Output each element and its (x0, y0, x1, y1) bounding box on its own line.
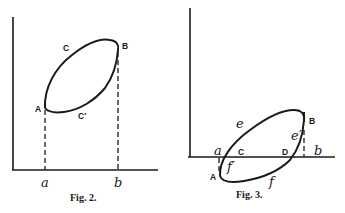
fig3-arc-e-prime: e′ (291, 128, 302, 143)
fig3-mark-b: b (314, 143, 322, 158)
fig2-label-B: B (122, 41, 128, 51)
fig3-label-B: B (309, 116, 315, 126)
fig3-label-A: A (210, 172, 216, 182)
fig3-label-D: D (282, 147, 288, 157)
fig2-label-A: A (35, 104, 41, 114)
fig2-mark-b: b (114, 175, 122, 190)
fig-3: A B C D a b e e′ f′ f Fig. 3. (188, 8, 335, 200)
fig3-arc-f: f (268, 174, 276, 189)
fig-2: A B C C′ a b Fig. 2. (12, 17, 158, 203)
fig3-mark-a: a (214, 143, 222, 158)
fig2-upper-arc (45, 40, 118, 108)
fig3-arc-e: e (236, 116, 244, 131)
fig2-lower-arc (45, 50, 118, 112)
fig2-caption: Fig. 2. (70, 192, 97, 203)
fig3-caption: Fig. 3. (236, 189, 263, 200)
fig2-label-C: C (63, 43, 69, 53)
fig3-arc-f-prime: f′ (226, 159, 235, 174)
figures-canvas: A B C C′ a b Fig. 2. A B C D a b e e′ f′… (0, 0, 345, 213)
fig2-mark-a: a (41, 175, 49, 190)
fig2-label-C-prime: C′ (78, 111, 86, 121)
fig3-label-C: C (238, 147, 244, 157)
